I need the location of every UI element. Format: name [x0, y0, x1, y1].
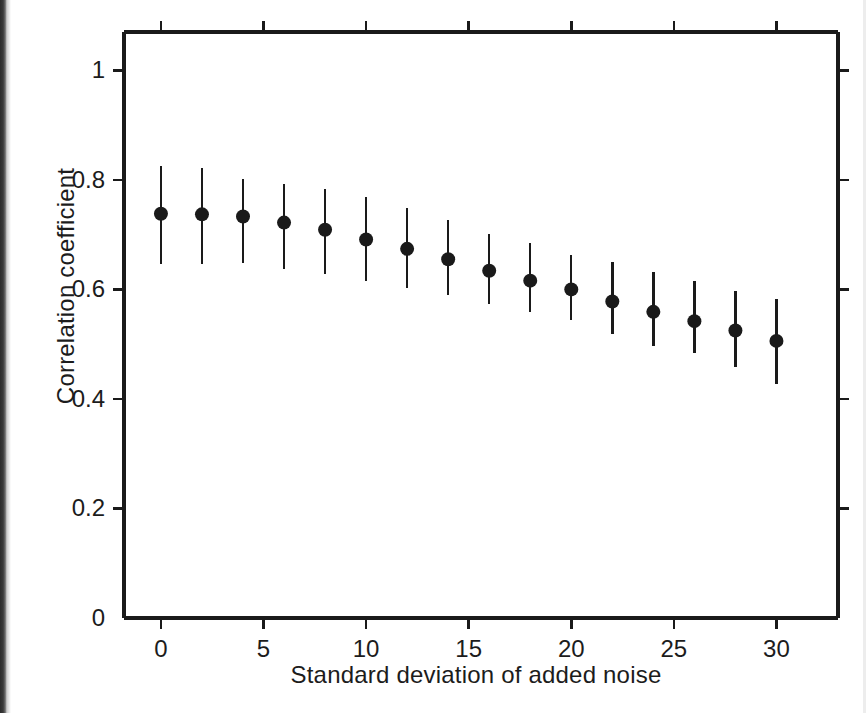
y-tick-label: 0 [0, 604, 105, 632]
data-point-marker [359, 233, 373, 247]
data-point-marker [277, 216, 291, 230]
plot-canvas [0, 0, 866, 713]
y-tick-label: 0.6 [0, 275, 105, 303]
data-point-marker [195, 207, 209, 221]
y-tick-label: 0.2 [0, 494, 105, 522]
scanned-figure-page: Correlation coefficient Standard deviati… [0, 0, 866, 713]
x-tick-label: 30 [763, 635, 790, 663]
data-point-marker [523, 274, 537, 288]
data-point-marker [236, 210, 250, 224]
data-point-marker [482, 264, 496, 278]
data-point-marker [687, 314, 701, 328]
data-point-marker [769, 334, 783, 348]
x-tick-label: 0 [154, 635, 167, 663]
y-tick-label: 0.8 [0, 166, 105, 194]
data-point-marker [605, 294, 619, 308]
x-tick-label: 10 [353, 635, 380, 663]
x-tick-label: 20 [558, 635, 585, 663]
data-point-marker [154, 207, 168, 221]
data-point-marker [728, 323, 742, 337]
data-point-marker [318, 223, 332, 237]
data-point-marker [646, 305, 660, 319]
y-tick-label: 0.4 [0, 385, 105, 413]
y-tick-label: 1 [0, 56, 105, 84]
data-point-marker [441, 252, 455, 266]
x-tick-label: 25 [661, 635, 688, 663]
x-axis-title: Standard deviation of added noise [113, 661, 839, 689]
correlation-vs-noise-figure: Correlation coefficient Standard deviati… [0, 0, 866, 713]
data-point-marker [400, 242, 414, 256]
data-point-marker [564, 282, 578, 296]
x-tick-label: 15 [455, 635, 482, 663]
x-tick-label: 5 [257, 635, 270, 663]
